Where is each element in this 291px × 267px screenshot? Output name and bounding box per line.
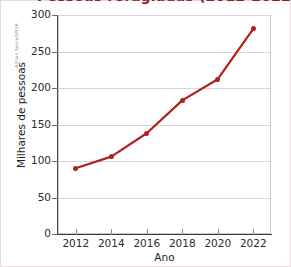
x-axis-line bbox=[57, 234, 272, 235]
data-point-marker bbox=[144, 131, 149, 136]
data-point-marker bbox=[109, 154, 114, 159]
y-axis-tick-label: 100 bbox=[5, 154, 51, 166]
y-axis-tick-label: 150 bbox=[5, 118, 51, 130]
y-axis-tick-label: 0 bbox=[5, 227, 51, 239]
y-axis-tick-labels: 050100150200250300 bbox=[3, 1, 51, 267]
y-axis-tick-label: 250 bbox=[5, 45, 51, 57]
y-axis-tick-label: 200 bbox=[5, 81, 51, 93]
data-point-marker bbox=[180, 98, 185, 103]
chart-title: Pessoas refugiadas (2012-2022) bbox=[37, 0, 291, 4]
series-polyline bbox=[76, 29, 254, 168]
y-axis-tick-label: 300 bbox=[5, 8, 51, 20]
y-axis-tick-label: 50 bbox=[5, 191, 51, 203]
x-axis-tick-label: 2022 bbox=[231, 237, 275, 249]
data-point-marker bbox=[215, 77, 220, 82]
y-axis-title: Milhares de pessoas bbox=[15, 40, 27, 190]
chart-figure: Pessoas refugiadas (2012-2022) Allison S… bbox=[0, 0, 291, 267]
data-series-line bbox=[58, 15, 271, 234]
x-axis-title: Ano bbox=[58, 251, 271, 263]
